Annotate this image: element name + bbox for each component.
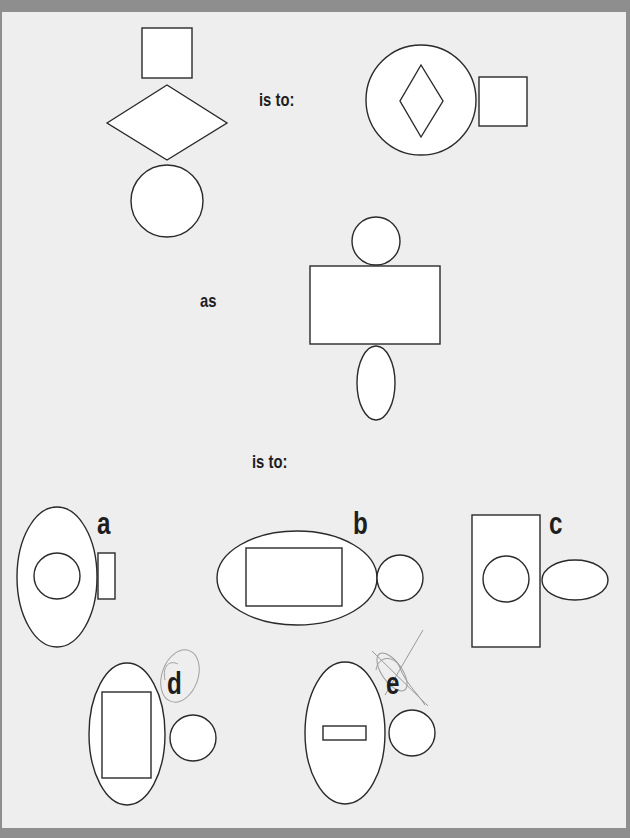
circle-shape (352, 217, 400, 265)
option-b-figure[interactable] (217, 531, 423, 625)
is-to-label-2: is to: (252, 451, 287, 473)
rect-shape (98, 553, 115, 599)
option-c-label[interactable]: c (549, 508, 562, 539)
option-d-label[interactable]: d (167, 668, 182, 699)
as-label: as (200, 290, 216, 312)
analogy-diagram (0, 0, 630, 838)
circle-shape (377, 555, 423, 601)
second-term-figure (366, 45, 527, 155)
third-term-figure (310, 217, 440, 420)
pencil-scribble-e (371, 630, 428, 706)
option-d-figure[interactable] (89, 663, 216, 805)
option-c-figure[interactable] (472, 515, 608, 647)
circle-shape (170, 715, 216, 761)
rect-shape (142, 28, 192, 78)
circle-shape (34, 553, 80, 599)
rect-shape (479, 77, 527, 126)
ellipse-shape (542, 560, 608, 600)
circle-shape (483, 556, 529, 602)
circle-shape (389, 710, 435, 756)
rect-shape (102, 692, 151, 778)
is-to-label-1: is to: (259, 89, 294, 111)
circle-shape (131, 165, 203, 237)
ellipse-shape (357, 346, 395, 420)
option-b-label[interactable]: b (353, 508, 368, 539)
rect-shape (246, 548, 342, 606)
option-e-figure[interactable] (305, 662, 435, 804)
first-term-figure (107, 28, 227, 237)
polygon-shape (107, 85, 227, 160)
rect-shape (323, 726, 366, 740)
option-e-label[interactable]: e (386, 668, 399, 699)
rect-shape (310, 266, 440, 344)
option-a-label[interactable]: a (97, 508, 110, 539)
